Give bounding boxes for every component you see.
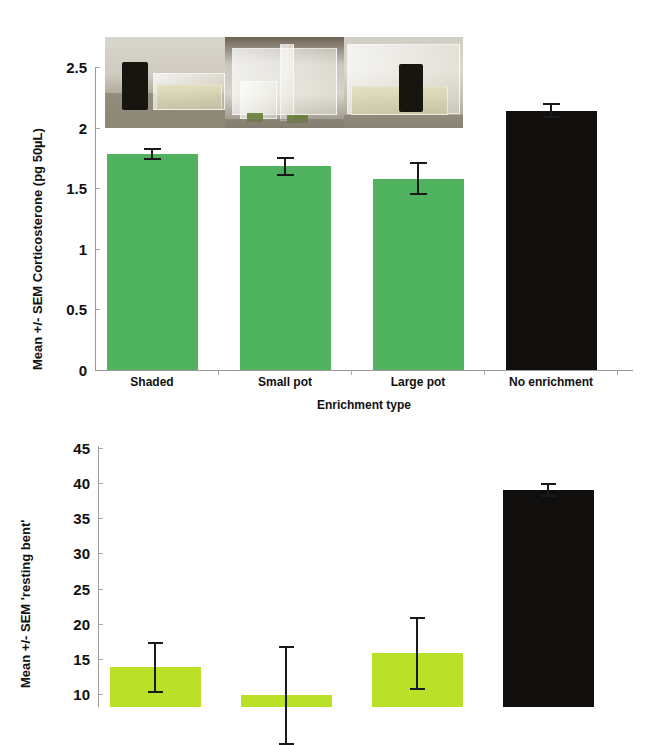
x-axis-title-corticosterone: Enrichment type xyxy=(95,398,633,412)
error-bar-cap-bottom xyxy=(543,116,560,118)
error-bar-cap-bottom xyxy=(410,193,427,195)
error-bar xyxy=(144,148,161,160)
error-bar-stem xyxy=(416,617,418,690)
bar-no-enrichment[interactable] xyxy=(503,490,594,707)
error-bar xyxy=(148,642,163,693)
error-bar-cap-bottom xyxy=(277,174,294,176)
y-tick-label: 30 xyxy=(44,546,90,561)
error-bar xyxy=(277,157,294,176)
error-bar-cap-top xyxy=(279,646,294,648)
photo-shaded-tank xyxy=(105,37,225,128)
photo-small-pot-tank xyxy=(225,37,344,128)
error-bar-cap-top xyxy=(148,642,163,644)
x-category-label: Small pot xyxy=(215,376,355,388)
error-bar-cap-bottom xyxy=(148,691,163,693)
y-tick-label: 2 xyxy=(41,121,87,136)
x-tick-mark xyxy=(617,370,618,375)
x-axis-line-corticosterone xyxy=(95,370,633,371)
x-tick-mark xyxy=(351,370,352,375)
error-bar-stem xyxy=(417,162,419,196)
y-tick-label: 2.5 xyxy=(41,60,87,75)
y-tick-label: 10 xyxy=(44,687,90,702)
y-tick-label: 15 xyxy=(44,652,90,667)
y-tick-label: 45 xyxy=(44,441,90,456)
error-bar-cap-top xyxy=(543,103,560,105)
x-category-label: Shaded xyxy=(82,376,222,388)
error-bar-cap-top xyxy=(410,162,427,164)
resting-bent-panel: Mean +/- SEM 'resting bent' 101520253035… xyxy=(0,420,645,707)
error-bar xyxy=(543,103,560,118)
y-tick-label: 35 xyxy=(44,511,90,526)
error-bar xyxy=(541,483,556,497)
error-bar-cap-top xyxy=(144,148,161,150)
photo-large-pot-tank xyxy=(344,37,463,128)
enrichment-setup-photo-strip xyxy=(105,37,463,128)
bar-small-pot[interactable] xyxy=(240,166,331,370)
y-tick-label: 1 xyxy=(41,242,87,257)
y-tick-label: 0.5 xyxy=(41,302,87,317)
y-tick-label: 40 xyxy=(44,476,90,491)
error-bar-cap-bottom xyxy=(541,495,556,497)
y-tick-label: 20 xyxy=(44,617,90,632)
y-tick-label: 1.5 xyxy=(41,181,87,196)
error-bar-cap-top xyxy=(410,617,425,619)
y-axis-line-corticosterone xyxy=(95,67,96,371)
y-tick-label: 25 xyxy=(44,582,90,597)
bar-large-pot[interactable] xyxy=(373,179,464,370)
bar-shaded[interactable] xyxy=(107,154,198,370)
error-bar-cap-top xyxy=(541,483,556,485)
corticosterone-panel: Mean +/- SEM Corticosterone (pg 50µL) 00… xyxy=(0,0,645,420)
error-bar-stem xyxy=(285,646,287,744)
x-category-label: Large pot xyxy=(348,376,488,388)
error-bar-cap-bottom xyxy=(410,688,425,690)
error-bar xyxy=(410,162,427,196)
error-bar-cap-bottom xyxy=(144,158,161,160)
x-tick-mark xyxy=(218,370,219,375)
x-tick-mark xyxy=(484,370,485,375)
y-axis-title-resting-bent: Mean +/- SEM 'resting bent' xyxy=(18,520,33,688)
error-bar xyxy=(279,646,294,744)
y-axis-line-resting-bent xyxy=(98,446,99,707)
error-bar xyxy=(410,617,425,690)
error-bar-cap-bottom xyxy=(279,743,294,745)
bar-no-enrichment[interactable] xyxy=(506,111,597,370)
y-tick-label: 0 xyxy=(41,363,87,378)
error-bar-cap-top xyxy=(277,157,294,159)
x-category-label: No enrichment xyxy=(481,376,621,388)
error-bar-stem xyxy=(154,642,156,693)
